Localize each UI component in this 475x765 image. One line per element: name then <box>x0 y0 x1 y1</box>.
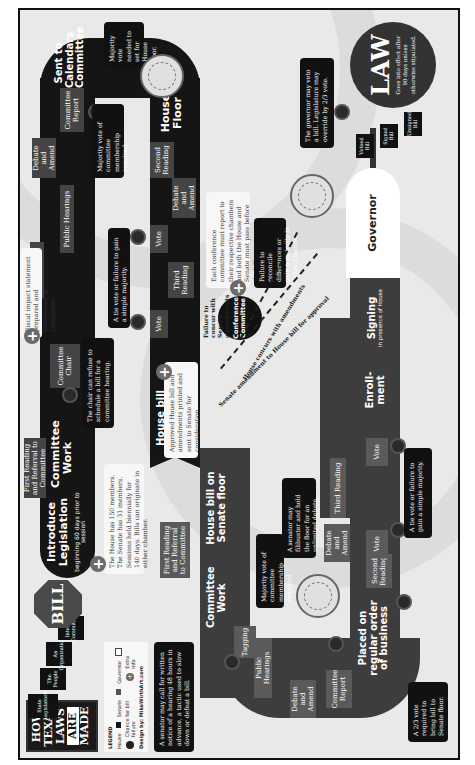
note-house-tie-vote: A tie vote or failure to gain a simple m… <box>108 228 130 328</box>
senate-vote-2: Vote <box>366 438 388 466</box>
senate-seal <box>296 574 340 618</box>
plus-icon: + <box>90 556 106 572</box>
legend-governor-swatch <box>115 648 122 656</box>
house-seal <box>140 54 184 98</box>
gear-icon <box>64 389 76 401</box>
senate-committee-work: Committee Work <box>206 568 227 628</box>
introduce-legislation-sub: beginning 60 days prior to session <box>74 492 87 572</box>
conference-failure-label: Failure to concur with Senate amendments <box>202 290 230 338</box>
note-senate-committee-majority: Majority vote of committee membership re… <box>256 534 284 608</box>
governor-label: Governor <box>366 194 379 251</box>
gear-icon <box>398 596 410 608</box>
house-committee-work: Committee Work <box>50 428 73 488</box>
senate-first-reading: First Reading and Referral to Committee <box>160 522 190 578</box>
note-house-committee-majority: Majority vote of committee membership re… <box>92 104 124 178</box>
bill-badge: BILL <box>34 580 82 628</box>
house-committee-report: Committee Report <box>60 88 84 132</box>
legend-senate-label: Senate <box>116 700 122 718</box>
plus-icon: + <box>24 328 40 344</box>
note-tagging: A senator may call for written notice of… <box>154 642 194 752</box>
plus-icon: + <box>126 673 134 681</box>
legend-house-swatch <box>116 722 121 728</box>
house-public-hearings: Public Hearings <box>60 185 74 253</box>
house-first-reading: First Reading and Referral to Committee <box>24 438 46 498</box>
source-the-people: The People <box>40 668 66 690</box>
gear-icon <box>392 524 404 536</box>
bill-label: BILL <box>49 584 67 625</box>
law-badge: LAW Goes into effect after 90 days unles… <box>350 22 436 108</box>
unsigned-bill: Unsigned Bill <box>404 112 422 136</box>
legend-heading: LEGEND <box>107 645 113 749</box>
legend-senate-swatch <box>116 689 121 695</box>
note-house-members: The House has 150 members. The Senate ha… <box>104 464 144 574</box>
senate-vote-1: Vote <box>366 530 388 558</box>
gear-icon <box>392 440 404 452</box>
signing-sub: in presence of House <box>377 289 383 347</box>
note-filibuster: A senator may filibuster and hold the fl… <box>282 478 316 558</box>
house-vote-1: Vote <box>150 225 168 253</box>
vetoed-bill: Vetoed Bill <box>356 134 374 158</box>
legend-chance-label: Chance for bill failure <box>124 685 136 738</box>
house-bill-on-senate-floor: House bill on Senate floor <box>206 468 227 548</box>
legend-credit: Design by: MikeWirthArt.com <box>138 645 144 749</box>
note-senate-tie-vote: A tie vote or failure to gain a simple m… <box>404 448 432 538</box>
legend-governor-label: Governor <box>116 661 122 684</box>
gear-icon <box>330 638 342 650</box>
gear-icon <box>132 316 144 328</box>
conference-label: Conference Committee <box>233 296 247 340</box>
gear-icon <box>336 106 348 118</box>
note-fiscal-impact: Fiscal impact statement prepared and dis… <box>20 248 42 338</box>
signed-bill: Signed Bill <box>380 124 398 148</box>
note-chair-refuse: The chair can refuse to schedule a bill … <box>82 338 114 428</box>
governor-seal <box>290 174 334 218</box>
house-committee-chair: Committee Chair <box>50 344 80 388</box>
senate-committee-report: Committee Report <box>326 670 352 708</box>
governor-step: Governor <box>346 168 400 278</box>
senate-third-reading: Third Reading <box>330 458 346 518</box>
senate-second-reading: Second Reading <box>366 554 392 588</box>
senate-floor-debate-amend: Debate and Amend <box>324 524 350 562</box>
gear-icon <box>126 741 134 749</box>
house-debate-amend: Debate and Amend <box>32 138 56 178</box>
note-calendars-vote: Majority vote needed to set for House fl… <box>104 22 144 68</box>
enrollment-label: Enroll-ment <box>364 362 386 418</box>
legend-extra-label: Extra Info <box>124 645 136 669</box>
enrollment-step: Enroll-ment <box>350 362 400 418</box>
house-vote-2: Vote <box>150 310 168 338</box>
note-conference-each: Each conference committee must report to… <box>206 192 250 288</box>
source-state-legislators: State Legislators <box>28 694 58 718</box>
gear-icon <box>226 656 238 668</box>
note-two-thirds: A 2/3 vote required to bring bill to Sen… <box>408 682 448 742</box>
infographic-frame: HOW TEXAS LAWS ARE MADE LEGEND House Sen… <box>18 8 460 760</box>
title-line: MADE <box>79 702 91 750</box>
introduce-legislation-title: Introduce Legislation <box>46 492 69 572</box>
house-floor-debate-amend: Debate and Amend <box>172 178 196 218</box>
source-an-organization: An Organization <box>46 642 72 666</box>
senate-debate-amend: Debate and Amend <box>290 680 316 718</box>
senate-regular-order: Placed on regular order of business <box>358 598 390 678</box>
sent-calendars-committee: Sent to Calendars Committee <box>54 38 86 88</box>
senate-tagging: Tagging <box>234 626 256 658</box>
note-conference-failure: Failure to reconcile differences or gain… <box>254 218 286 288</box>
legend: LEGEND House Senate Governor Chance for … <box>104 642 148 752</box>
house-second-reading: Second Reading <box>150 142 174 178</box>
plus-icon: + <box>156 364 172 380</box>
law-sub: Goes into effect after 90 days unless ot… <box>395 35 416 95</box>
gear-icon <box>132 231 144 243</box>
plus-icon: + <box>230 280 246 296</box>
senate-public-hearings: Public Hearings <box>254 638 272 698</box>
signing-label: Signing <box>366 297 377 340</box>
infographic-stage: HOW TEXAS LAWS ARE MADE LEGEND House Sen… <box>0 0 475 765</box>
house-third-reading: Third Reading <box>168 262 194 298</box>
law-label: LAW <box>369 34 393 95</box>
legend-house-label: House <box>116 733 122 749</box>
note-veto: The governor may veto a bill. Legislatur… <box>300 58 334 148</box>
